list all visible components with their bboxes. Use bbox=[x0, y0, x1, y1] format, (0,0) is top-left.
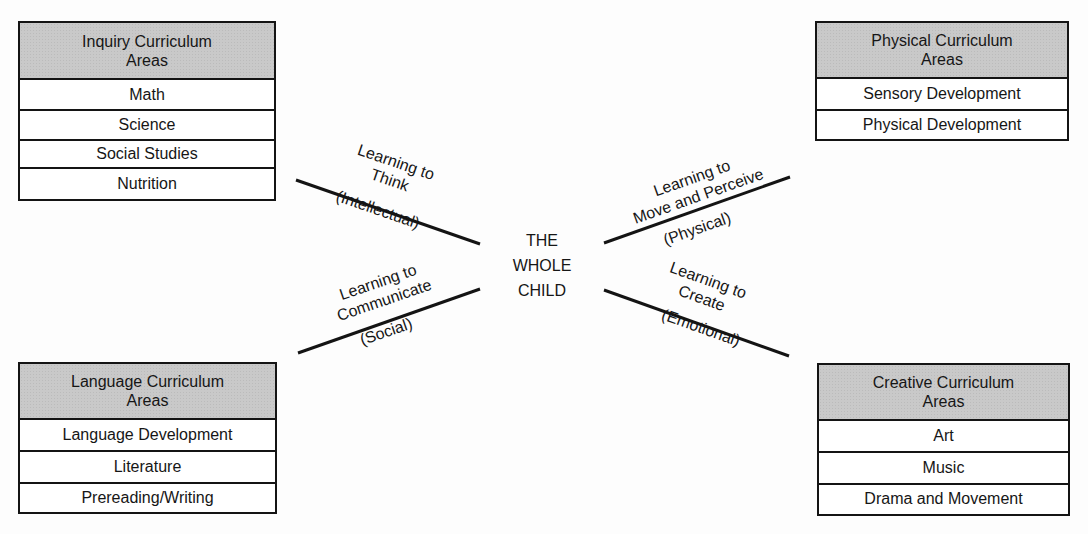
language-header-line1: Language Curriculum bbox=[20, 372, 275, 391]
creative-header: Creative Curriculum Areas bbox=[819, 365, 1068, 421]
language-curriculum-box: Language Curriculum Areas Language Devel… bbox=[18, 362, 277, 514]
whole-child-label: THE WHOLE CHILD bbox=[500, 228, 584, 303]
creative-item-drama: Drama and Movement bbox=[819, 485, 1068, 513]
center-line-the: THE bbox=[500, 228, 584, 253]
creative-item-art: Art bbox=[819, 421, 1068, 453]
creative-item-music: Music bbox=[819, 453, 1068, 485]
physical-item-sensory: Sensory Development bbox=[817, 79, 1067, 111]
physical-header-line2: Areas bbox=[817, 50, 1067, 69]
physical-header-line1: Physical Curriculum bbox=[817, 31, 1067, 50]
physical-item-physical: Physical Development bbox=[817, 111, 1067, 138]
creative-curriculum-box: Creative Curriculum Areas Art Music Dram… bbox=[817, 363, 1070, 516]
inquiry-curriculum-box: Inquiry Curriculum Areas Math Science So… bbox=[18, 21, 276, 201]
inquiry-header: Inquiry Curriculum Areas bbox=[20, 23, 274, 80]
language-header: Language Curriculum Areas bbox=[20, 364, 275, 420]
creative-header-line2: Areas bbox=[819, 392, 1068, 411]
language-item-prereading: Prereading/Writing bbox=[20, 484, 275, 511]
physical-curriculum-box: Physical Curriculum Areas Sensory Develo… bbox=[815, 21, 1069, 141]
creative-header-line1: Creative Curriculum bbox=[819, 373, 1068, 392]
inquiry-header-line1: Inquiry Curriculum bbox=[20, 32, 274, 51]
inquiry-item-math: Math bbox=[20, 80, 274, 111]
inquiry-item-nutrition: Nutrition bbox=[20, 169, 274, 198]
language-item-literature: Literature bbox=[20, 452, 275, 484]
inquiry-item-science: Science bbox=[20, 111, 274, 141]
language-item-development: Language Development bbox=[20, 420, 275, 452]
center-line-child: CHILD bbox=[500, 278, 584, 303]
center-line-whole: WHOLE bbox=[500, 253, 584, 278]
inquiry-item-social-studies: Social Studies bbox=[20, 141, 274, 169]
language-header-line2: Areas bbox=[20, 391, 275, 410]
inquiry-header-line2: Areas bbox=[20, 51, 274, 70]
physical-header: Physical Curriculum Areas bbox=[817, 23, 1067, 79]
